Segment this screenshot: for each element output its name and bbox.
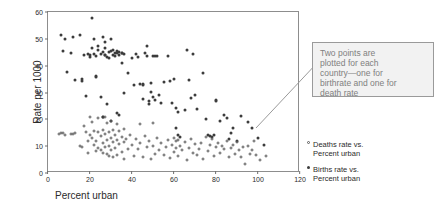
deaths-rate-point [131,144,134,147]
deaths-rate-point [105,121,108,124]
y-axis-tick: 50 [35,35,48,42]
births-rate-point [80,79,83,82]
deaths-rate-point [183,141,186,144]
legend-entry-label: Deaths rate vs. Percent urban [313,140,363,158]
deaths-rate-point [89,116,92,119]
births-rate-point [74,79,77,82]
deaths-rate-point [120,150,123,153]
deaths-rate-point [120,136,123,139]
y-axis-tick-label: 30 [35,89,45,96]
deaths-rate-point [252,140,255,143]
births-rate-point [158,94,161,97]
chart-legend: Deaths rate vs. Percent urbanBirths rate… [304,140,424,190]
y-axis-tick: 10 [35,143,48,150]
x-axis-tick: 80 [212,171,220,183]
x-axis-tick: 60 [170,171,178,183]
births-rate-point [173,78,176,81]
y-axis-tick-mark [45,119,48,120]
deaths-rate-point [116,153,119,156]
deaths-rate-point [122,140,125,143]
deaths-rate-point [107,155,110,158]
x-axis-tick-label: 40 [128,174,136,183]
births-rate-point [78,33,81,36]
y-axis-tick-label: 10 [35,143,45,150]
births-rate-point [149,82,152,85]
deaths-rate-point [152,122,155,125]
x-axis-tick: 100 [252,171,264,183]
births-rate-point [114,55,117,58]
deaths-rate-point [95,139,98,142]
deaths-rate-point [93,143,96,146]
births-rate-point [131,56,134,59]
deaths-rate-point [181,148,184,151]
births-rate-point [91,47,94,50]
births-rate-point [166,55,169,58]
births-rate-point [89,53,92,56]
open-circle-marker-icon [304,140,313,144]
deaths-rate-point [93,130,96,133]
births-rate-point [189,97,192,100]
deaths-rate-point [141,155,144,158]
deaths-rate-point [152,144,155,147]
births-rate-point [187,78,190,81]
births-rate-point [147,100,150,103]
deaths-rate-point [173,151,176,154]
births-rate-point [95,55,98,58]
deaths-rate-point [97,116,100,119]
deaths-rate-point [225,139,228,142]
deaths-rate-point [147,139,150,142]
births-rate-point [120,61,123,64]
deaths-rate-point [133,154,136,157]
deaths-rate-point [164,145,167,148]
deaths-rate-point [238,149,241,152]
births-rate-point [137,56,140,59]
deaths-rate-point [221,144,224,147]
deaths-rate-point [227,155,230,158]
deaths-rate-point [114,134,117,137]
deaths-rate-point [160,142,163,145]
data-points-layer [48,12,298,171]
births-rate-point [145,55,148,58]
deaths-rate-point [223,148,226,151]
deaths-rate-point [122,127,125,130]
deaths-rate-point [103,145,106,148]
deaths-rate-point [95,150,98,153]
births-rate-point [194,94,197,97]
births-rate-point [145,44,148,47]
births-rate-point [185,49,188,52]
deaths-rate-point [231,143,234,146]
deaths-rate-point [91,121,94,124]
deaths-rate-point [187,146,190,149]
deaths-rate-point [185,158,188,161]
deaths-rate-point [63,133,66,136]
deaths-rate-point [166,138,169,141]
deaths-rate-point [168,156,171,159]
x-axis-tick-label: 80 [212,174,220,183]
plot-area: 0102030405060 020406080100120 [47,11,299,172]
births-rate-point [154,99,157,102]
deaths-rate-point [139,141,142,144]
deaths-rate-point [189,138,192,141]
births-rate-point [99,96,102,99]
deaths-rate-point [248,153,251,156]
births-rate-point [149,90,152,93]
births-rate-point [70,52,73,55]
births-rate-point [97,44,100,47]
y-axis-tick-label: 50 [35,35,45,42]
deaths-rate-point [217,142,220,145]
deaths-rate-point [198,147,201,150]
births-rate-point [122,91,125,94]
deaths-rate-point [139,122,142,125]
y-axis-tick-label: 20 [35,116,45,123]
deaths-rate-point [110,137,113,140]
births-rate-point [204,118,207,121]
births-rate-point [225,117,228,120]
deaths-rate-point [107,130,110,133]
deaths-rate-point [215,146,218,149]
births-rate-point [103,47,106,50]
births-rate-point [72,35,75,38]
births-rate-point [170,102,173,105]
deaths-rate-point [170,143,173,146]
births-rate-point [257,136,260,139]
deaths-rate-point [112,141,115,144]
